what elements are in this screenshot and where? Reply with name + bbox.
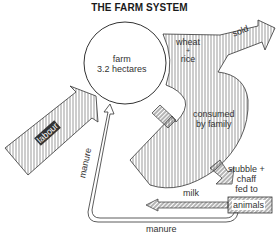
farm-label: farm 3.2 hectares xyxy=(97,54,147,74)
milk-arrow xyxy=(146,199,228,211)
manure-bottom-label: manure xyxy=(146,224,177,234)
animals-label: animals xyxy=(232,200,265,210)
crop-rice: rice xyxy=(176,54,200,64)
fodder-line2: chaff xyxy=(228,174,265,184)
consumed-line2: by family xyxy=(193,119,235,129)
consumed-line1: consumed xyxy=(193,109,235,119)
crop-label: wheat + rice xyxy=(176,37,200,64)
consumed-label: consumed by family xyxy=(193,109,235,129)
milk-label: milk xyxy=(183,188,199,198)
fodder-label: stubble + chaff fed to xyxy=(228,164,265,194)
fodder-line1: stubble + xyxy=(228,164,265,174)
fodder-line3: fed to xyxy=(228,184,265,194)
crop-plus: + xyxy=(176,47,200,54)
farm-name: farm xyxy=(97,54,147,64)
crop-wheat: wheat xyxy=(176,37,200,47)
farm-area: 3.2 hectares xyxy=(97,64,147,74)
